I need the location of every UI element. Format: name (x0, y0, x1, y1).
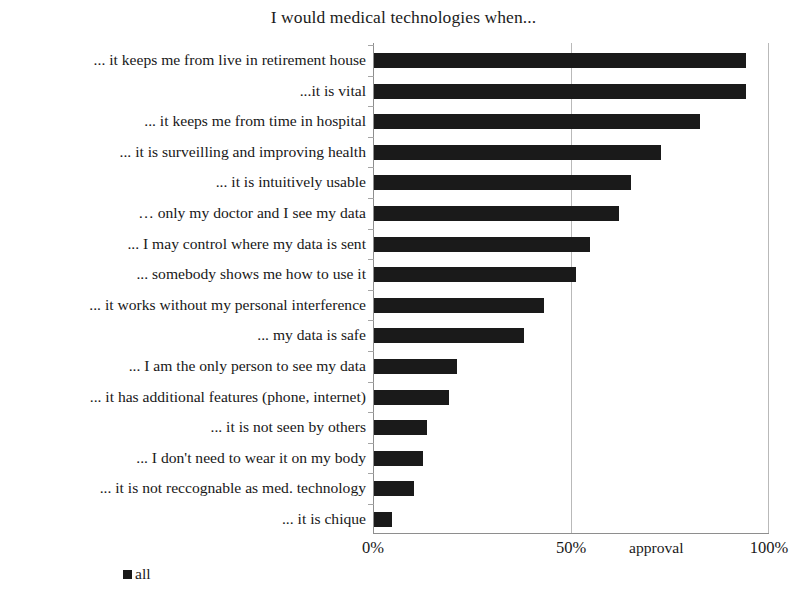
y-axis-tick (368, 320, 374, 321)
category-label: ... it keeps me from live in retirement … (94, 45, 366, 76)
bar (374, 420, 427, 435)
y-axis-tick (368, 351, 374, 352)
y-axis-tick (368, 45, 374, 46)
bar (374, 53, 746, 68)
bar-row: ... it is chique (0, 504, 807, 535)
x-tick-label-50: 50% (546, 538, 596, 558)
bar-row: … only my doctor and I see my data (0, 198, 807, 229)
bar-row: ... I am the only person to see my data (0, 351, 807, 382)
x-tick-label-0: 0% (353, 538, 393, 558)
bar (374, 390, 449, 405)
bar (374, 512, 392, 527)
y-axis-tick (368, 443, 374, 444)
bar (374, 298, 544, 313)
bar (374, 237, 590, 252)
category-label: ... somebody shows me how to use it (136, 259, 366, 290)
bar (374, 451, 423, 466)
category-label: ... it keeps me from time in hospital (144, 106, 366, 137)
y-axis-tick (368, 259, 374, 260)
y-axis-tick (368, 167, 374, 168)
chart-figure: I would medical technologies when... ...… (0, 0, 807, 613)
bar (374, 206, 619, 221)
bar-row: ...it is vital (0, 76, 807, 107)
bar (374, 84, 746, 99)
bar (374, 175, 631, 190)
category-label: ...it is vital (300, 76, 366, 107)
category-label: ... my data is safe (257, 320, 366, 351)
y-axis-tick (368, 412, 374, 413)
y-axis-tick (368, 198, 374, 199)
category-label: ... it is intuitively usable (216, 167, 366, 198)
bar (374, 114, 700, 129)
x-tick-label-100: 100% (738, 538, 800, 558)
bar-row: ... it is not reccognable as med. techno… (0, 473, 807, 504)
chart-title: I would medical technologies when... (0, 7, 807, 28)
legend: all (123, 566, 151, 582)
bar (374, 481, 414, 496)
category-label: … only my doctor and I see my data (138, 198, 366, 229)
bar-row: ... it is not seen by others (0, 412, 807, 443)
y-axis-tick (368, 382, 374, 383)
y-axis-tick (368, 290, 374, 291)
bar (374, 359, 457, 374)
bar-row: ... I don't need to wear it on my body (0, 443, 807, 474)
bar (374, 267, 576, 282)
bar-row: ... it keeps me from time in hospital (0, 106, 807, 137)
category-label: ... it works without my personal interfe… (89, 290, 366, 321)
bar-row: ... somebody shows me how to use it (0, 259, 807, 290)
y-axis-tick (368, 76, 374, 77)
y-axis-tick (368, 137, 374, 138)
bar (374, 328, 524, 343)
y-axis-tick (368, 106, 374, 107)
category-label: ... I may control where my data is sent (127, 229, 366, 260)
bar-row: ... it keeps me from live in retirement … (0, 45, 807, 76)
category-label: ... I don't need to wear it on my body (136, 443, 366, 474)
category-label: ... it is not seen by others (211, 412, 367, 443)
category-label: ... it is chique (282, 504, 366, 535)
bar-row: ... it is intuitively usable (0, 167, 807, 198)
x-axis-label: approval (629, 539, 684, 557)
category-label: ... it is surveilling and improving heal… (120, 137, 366, 168)
bar-row: ... it has additional features (phone, i… (0, 382, 807, 413)
bar (374, 145, 661, 160)
y-axis-tick (368, 229, 374, 230)
legend-label-all: all (135, 566, 151, 582)
bar-row: ... it is surveilling and improving heal… (0, 137, 807, 168)
category-label: ... it has additional features (phone, i… (90, 382, 366, 413)
category-label: ... I am the only person to see my data (129, 351, 366, 382)
bar-row: ... my data is safe (0, 320, 807, 351)
legend-swatch-all (123, 570, 132, 579)
bar-row: ... it works without my personal interfe… (0, 290, 807, 321)
y-axis-tick (368, 473, 374, 474)
y-axis-tick (368, 504, 374, 505)
bar-row: ... I may control where my data is sent (0, 229, 807, 260)
category-label: ... it is not reccognable as med. techno… (100, 473, 366, 504)
